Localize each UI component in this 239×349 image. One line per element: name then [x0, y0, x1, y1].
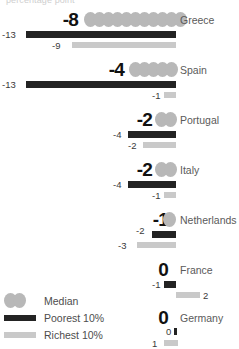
- poorest-bar: [128, 181, 176, 188]
- poorest-bar: [26, 81, 176, 88]
- richest-value: -1: [152, 91, 160, 101]
- richest-value: -2: [128, 141, 136, 151]
- richest-bar: [164, 192, 176, 198]
- median-dots: [84, 11, 183, 28]
- richest-bar: [164, 92, 176, 98]
- poorest-value: -4: [113, 180, 121, 190]
- median-dot: [165, 62, 178, 77]
- country-label-portugal: Portugal: [180, 114, 219, 126]
- richest-value: -3: [118, 241, 126, 251]
- median-value: -2: [112, 110, 152, 129]
- country-label-italy: Italy: [180, 164, 199, 176]
- richest-bar-row: -1: [0, 191, 239, 200]
- richest-bar: [164, 340, 178, 346]
- poorest-value: -1: [152, 280, 160, 290]
- median-value: 0: [138, 260, 168, 279]
- richest-bar-row: -9: [0, 41, 239, 50]
- legend-item-median: Median: [4, 292, 124, 309]
- country-label-spain: Spain: [180, 64, 207, 76]
- dark-bar-icon: [4, 315, 38, 321]
- poorest-bar: [152, 231, 176, 238]
- median-dot: [13, 293, 26, 308]
- poorest-bar-row: -4: [0, 130, 239, 139]
- richest-value: 2: [203, 291, 208, 301]
- light-bar-icon: [4, 332, 38, 338]
- median-value: 0: [138, 308, 168, 327]
- median-value: -1: [128, 210, 168, 229]
- poorest-bar-row: -13: [0, 30, 239, 39]
- country-label-netherlands: Netherlands: [180, 214, 237, 226]
- poorest-bar-row: -4: [0, 180, 239, 189]
- poorest-bar-row: -13: [0, 80, 239, 89]
- median-value: -2: [112, 160, 152, 179]
- median-dots: [129, 61, 174, 78]
- poorest-bar-row: -1: [0, 280, 239, 289]
- legend-label: Richest 10%: [44, 329, 103, 341]
- richest-bar: [176, 292, 200, 298]
- poorest-bar: [174, 328, 177, 335]
- dumbbell-chart: percentage point -8 Greece -13 -9 -4: [0, 0, 239, 349]
- legend-item-richest: Richest 10%: [4, 326, 124, 343]
- median-value: -8: [38, 10, 78, 29]
- richest-bar: [137, 242, 176, 248]
- legend-bar: [4, 315, 36, 321]
- median-dots: [155, 111, 173, 128]
- richest-value: -9: [52, 41, 60, 51]
- poorest-value: -2: [136, 226, 144, 236]
- chart-legend: Median Poorest 10% Richest 10%: [4, 292, 124, 343]
- country-label-greece: Greece: [180, 14, 214, 26]
- poorest-bar: [128, 131, 176, 138]
- median-dot: [164, 162, 177, 177]
- median-dots: [163, 211, 172, 228]
- legend-bar: [4, 332, 36, 338]
- legend-item-poorest: Poorest 10%: [4, 309, 124, 326]
- richest-bar: [72, 42, 176, 48]
- poorest-value: -4: [113, 130, 121, 140]
- poorest-value: -13: [2, 80, 16, 90]
- poorest-bar-row: -2: [0, 230, 239, 239]
- chart-title: percentage point: [6, 0, 75, 5]
- poorest-bar: [164, 281, 176, 288]
- country-label-france: France: [180, 264, 213, 276]
- poorest-value: 0: [166, 327, 171, 337]
- poorest-value: -13: [2, 30, 16, 40]
- richest-bar-row: -1: [0, 91, 239, 100]
- richest-bar-row: -3: [0, 241, 239, 250]
- legend-label: Poorest 10%: [44, 312, 104, 324]
- legend-label: Median: [44, 295, 78, 307]
- poorest-bar: [26, 31, 176, 38]
- median-value: -4: [84, 60, 124, 79]
- median-dots-icon: [4, 293, 38, 308]
- median-dot: [163, 212, 176, 227]
- richest-value: 1: [152, 339, 157, 349]
- richest-value: -1: [152, 191, 160, 201]
- richest-bar-row: -2: [0, 141, 239, 150]
- median-dot: [164, 112, 177, 127]
- richest-bar: [143, 142, 176, 148]
- median-dots: [155, 161, 173, 178]
- country-label-germany: Germany: [180, 312, 223, 324]
